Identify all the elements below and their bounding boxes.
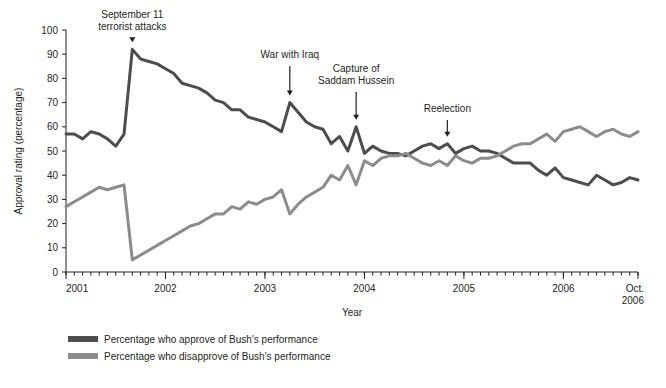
legend-label-disapprove: Percentage who disapprove of Bush's perf… — [104, 351, 331, 362]
annotation-label: War with Iraq — [261, 49, 320, 60]
chart-canvas: 0102030405060708090100Approval rating (p… — [0, 0, 666, 388]
y-tick-label: 70 — [47, 97, 59, 108]
x-tick-label: 2001 — [66, 283, 89, 294]
y-tick-label: 80 — [47, 73, 59, 84]
y-tick-label: 40 — [47, 170, 59, 181]
x-tick-label: 2006 — [622, 295, 645, 306]
annotation-arrowhead — [353, 115, 359, 120]
y-tick-label: 10 — [47, 242, 59, 253]
y-tick-label: 0 — [52, 267, 58, 278]
x-tick-label: 2006 — [552, 283, 575, 294]
annotation-arrowhead — [287, 91, 293, 96]
x-tick-label: Oct. — [626, 283, 644, 294]
y-tick-label: 30 — [47, 194, 59, 205]
annotation-label: Saddam Hussein — [318, 75, 394, 86]
annotation-label: September 11 — [101, 9, 164, 20]
legend-swatch-disapprove — [68, 353, 98, 359]
annotation-label: Reelection — [424, 103, 471, 114]
x-tick-label: 2005 — [453, 283, 476, 294]
y-axis-title: Approval rating (percentage) — [13, 88, 24, 215]
y-tick-label: 50 — [47, 146, 59, 157]
x-tick-label: 2003 — [254, 283, 277, 294]
x-tick-label: 2002 — [154, 283, 177, 294]
annotation-label: Capture of — [333, 63, 380, 74]
x-tick-label: 2004 — [353, 283, 376, 294]
series-line-disapprove — [66, 127, 638, 260]
y-tick-label: 90 — [47, 49, 59, 60]
y-tick-label: 20 — [47, 218, 59, 229]
y-tick-label: 100 — [41, 25, 58, 36]
x-axis-title: Year — [342, 307, 363, 318]
annotation-arrowhead — [444, 132, 450, 137]
y-tick-label: 60 — [47, 121, 59, 132]
legend-swatch-approve — [68, 336, 98, 342]
approval-rating-chart: 0102030405060708090100Approval rating (p… — [0, 0, 666, 388]
annotation-arrowhead — [129, 37, 135, 42]
annotation-label: terrorist attacks — [98, 21, 166, 32]
legend-label-approve: Percentage who approve of Bush's perform… — [104, 334, 318, 345]
